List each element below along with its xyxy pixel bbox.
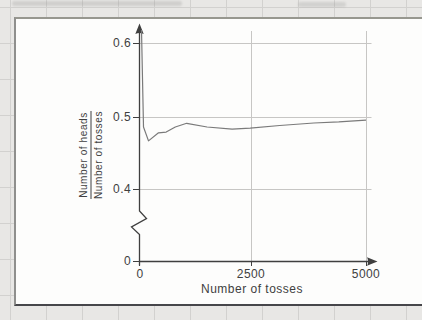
y-tick-label-0-5: 0.5: [105, 110, 131, 124]
y-tick-label-0-4: 0.4: [105, 182, 131, 196]
x-tick-label-5000: 5000: [342, 267, 390, 281]
x-tick-label-0: 0: [128, 267, 152, 281]
x-tick-label-2500: 2500: [227, 267, 275, 281]
plot-line: [142, 30, 367, 141]
axis-arrowheads: [135, 24, 377, 266]
y-axis-line-with-break: [132, 30, 147, 266]
axes: [132, 30, 371, 266]
page-background: 0.6 0.5 0.4 0 0 2500 5000 Number of toss…: [0, 0, 422, 320]
x-axis-arrow-icon: [367, 257, 378, 265]
y-tick-label-0-6: 0.6: [105, 36, 131, 50]
y-axis-title-denominator: Number of tosses: [92, 111, 105, 199]
y-axis-title-numerator: Number of heads: [78, 111, 92, 199]
y-axis-title-fraction: Number of heads Number of tosses: [78, 111, 105, 199]
x-axis-title: Number of tosses: [172, 282, 332, 296]
gridlines: [139, 31, 372, 261]
y-tick-label-0: 0: [105, 254, 131, 268]
y-axis-arrow-icon: [135, 24, 143, 35]
tick-marks: [133, 44, 367, 267]
